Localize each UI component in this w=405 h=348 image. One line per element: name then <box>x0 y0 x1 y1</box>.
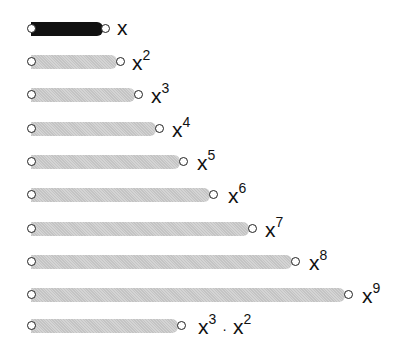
power-bar <box>31 122 156 136</box>
start-node-icon <box>27 257 36 266</box>
power-bar <box>31 155 180 169</box>
power-label: x6 <box>228 182 246 208</box>
power-label: x <box>117 16 128 40</box>
end-node-icon <box>177 321 186 330</box>
end-node-icon <box>248 224 257 233</box>
power-bar <box>31 88 135 102</box>
end-node-icon <box>101 24 110 33</box>
power-bar <box>31 55 117 69</box>
end-node-icon <box>179 157 188 166</box>
start-node-icon <box>27 124 36 133</box>
start-node-icon <box>27 157 36 166</box>
power-label: x3·x2 <box>198 313 251 339</box>
start-node-icon <box>27 90 36 99</box>
power-label: x9 <box>362 282 380 308</box>
end-node-icon <box>209 190 218 199</box>
power-bar <box>31 222 249 236</box>
start-node-icon <box>27 24 36 33</box>
start-node-icon <box>27 190 36 199</box>
start-node-icon <box>27 321 36 330</box>
start-node-icon <box>27 57 36 66</box>
end-node-icon <box>344 290 353 299</box>
start-node-icon <box>27 290 36 299</box>
power-bar <box>31 255 292 269</box>
end-node-icon <box>291 257 300 266</box>
start-node-icon <box>27 224 36 233</box>
power-bar <box>31 188 210 202</box>
end-node-icon <box>134 90 143 99</box>
power-bar <box>31 288 345 302</box>
power-bar <box>31 22 103 36</box>
power-label: x4 <box>172 116 190 142</box>
power-label: x3 <box>151 82 169 108</box>
power-label: x7 <box>265 216 283 242</box>
power-label: x5 <box>197 149 215 175</box>
end-node-icon <box>155 124 164 133</box>
power-label: x8 <box>309 249 327 275</box>
power-label: x2 <box>132 49 150 75</box>
end-node-icon <box>116 57 125 66</box>
power-bar <box>31 319 178 333</box>
